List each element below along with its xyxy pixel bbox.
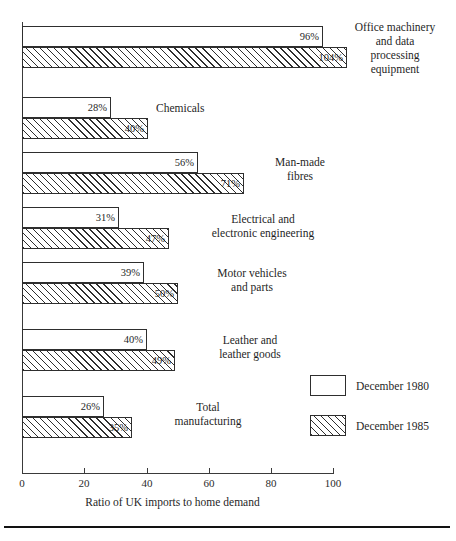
bar-1980-leather-goods: 40% <box>22 329 147 350</box>
bar-1980-total-manufacturing: 26% <box>22 396 104 417</box>
bar-value-label: 71% <box>221 178 240 190</box>
x-tick-100 <box>333 468 334 474</box>
bar-1985-electrical-electronic: 47% <box>22 228 169 249</box>
legend-label-december-1980: December 1980 <box>356 379 429 393</box>
category-label-electrical-electronic: Electrical and electronic engineering <box>178 212 348 240</box>
bar-1980-chemicals: 28% <box>22 97 111 118</box>
x-tick-label-100: 100 <box>313 477 353 490</box>
x-tick-label-80: 80 <box>251 477 291 490</box>
bar-1985-chemicals: 40% <box>22 118 148 139</box>
bar-value-label: 56% <box>175 157 194 169</box>
x-tick-0 <box>22 468 23 474</box>
category-label-man-made-fibres: Man-made fibres <box>250 155 350 183</box>
x-tick-60 <box>209 468 210 474</box>
bar-1985-office-machinery: 104% <box>22 47 347 68</box>
legend-label-december-1985: December 1985 <box>356 419 429 433</box>
legend-swatch-december-1980 <box>310 375 346 396</box>
x-axis-title: Ratio of UK imports to home demand <box>0 495 345 509</box>
x-axis-line <box>22 473 334 474</box>
bar-value-label: 40% <box>125 123 144 135</box>
bar-value-label: 31% <box>96 212 115 224</box>
category-label-office-machinery: Office machinery and data processing equ… <box>336 20 454 76</box>
bar-value-label: 39% <box>121 267 140 279</box>
bar-value-label: 50% <box>155 288 174 300</box>
category-label-chemicals: Chemicals <box>156 101 276 115</box>
bar-value-label: 26% <box>81 401 100 413</box>
x-tick-20 <box>84 468 85 474</box>
x-tick-label-40: 40 <box>127 477 167 490</box>
bar-value-label: 96% <box>300 31 319 43</box>
bar-1980-man-made-fibres: 56% <box>22 152 198 173</box>
bar-1980-motor-vehicles: 39% <box>22 262 144 283</box>
bar-value-label: 35% <box>109 422 128 434</box>
bar-chart-figure: 0 20 40 60 80 100 96% 104% Office machin… <box>0 0 456 541</box>
bar-1985-leather-goods: 49% <box>22 350 175 371</box>
legend-swatch-december-1985 <box>310 415 346 436</box>
bar-value-label: 49% <box>152 355 171 367</box>
bar-1985-motor-vehicles: 50% <box>22 283 178 304</box>
bar-1980-electrical-electronic: 31% <box>22 207 119 228</box>
x-tick-label-60: 60 <box>189 477 229 490</box>
bar-value-label: 40% <box>124 334 143 346</box>
bar-1980-office-machinery: 96% <box>22 26 323 47</box>
category-label-total-manufacturing: Total manufacturing <box>140 400 276 428</box>
bottom-divider-rule <box>4 526 450 528</box>
category-label-motor-vehicles: Motor vehicles and parts <box>184 266 320 294</box>
x-tick-label-20: 20 <box>64 477 104 490</box>
bar-value-label: 47% <box>146 233 165 245</box>
x-tick-80 <box>271 468 272 474</box>
bar-1985-man-made-fibres: 71% <box>22 173 244 194</box>
bar-value-label: 28% <box>88 102 107 114</box>
x-tick-40 <box>147 468 148 474</box>
bar-1985-total-manufacturing: 35% <box>22 417 132 438</box>
x-tick-label-0: 0 <box>2 477 42 490</box>
category-label-leather-goods: Leather and leather goods <box>182 333 318 361</box>
